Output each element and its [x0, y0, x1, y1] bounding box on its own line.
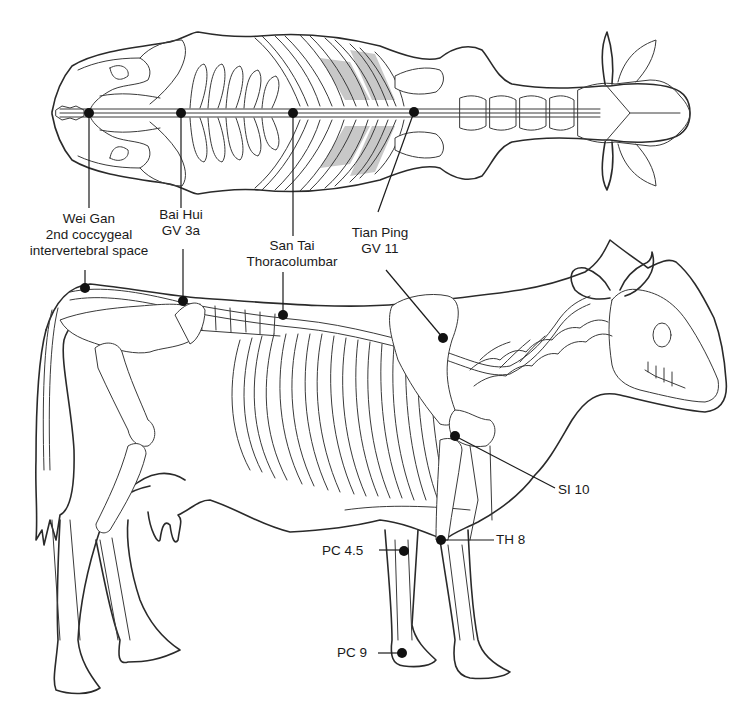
ear: [571, 268, 610, 299]
point-san-tai-lateral: [278, 310, 288, 320]
point-bai-hui-dorsal: [176, 108, 186, 118]
skull: [609, 289, 718, 402]
leader-lines: [85, 112, 555, 653]
belly-line: [128, 473, 445, 541]
hind-leg-near: [96, 520, 180, 663]
label-pc45: PC 4.5: [322, 543, 363, 559]
label-tian-ping-code: GV 11: [352, 241, 409, 257]
label-wei-gan: Wei Gan 2nd coccygeal intervertebral spa…: [30, 211, 149, 259]
label-tian-ping-name: Tian Ping: [352, 225, 409, 241]
point-pc9: [397, 648, 407, 658]
point-tian-ping-dorsal: [409, 107, 419, 117]
front-leg-near: [440, 530, 510, 679]
label-wei-gan-name: Wei Gan: [30, 211, 149, 227]
label-pc9: PC 9: [337, 645, 367, 661]
tibia: [96, 444, 146, 533]
label-bai-hui-code: GV 3a: [159, 223, 203, 239]
point-wei-gan-lateral: [80, 283, 90, 293]
lateral-view-skeleton: [0, 0, 756, 701]
femur: [95, 343, 155, 446]
label-bai-hui-name: Bai Hui: [159, 207, 203, 223]
point-san-tai-dorsal: [288, 108, 298, 118]
horn: [620, 252, 654, 296]
label-si10: SI 10: [558, 482, 590, 498]
scapula: [390, 294, 459, 425]
label-bai-hui: Bai Hui GV 3a: [159, 207, 203, 239]
label-san-tai-name: San Tai: [247, 238, 338, 254]
label-wei-gan-line3: intervertebral space: [30, 243, 149, 259]
point-bai-hui-lateral: [178, 296, 188, 306]
radius: [436, 438, 462, 540]
label-san-tai-line2: Thoracolumbar: [247, 254, 338, 270]
label-wei-gan-line2: 2nd coccygeal: [30, 227, 149, 243]
lateral-cervical-vertebrae: [470, 320, 612, 386]
point-pc45: [399, 546, 409, 556]
orbit: [653, 323, 671, 347]
lateral-pelvis: [60, 304, 197, 353]
point-si10: [450, 431, 460, 441]
cow-acupuncture-diagram: Wei Gan 2nd coccygeal intervertebral spa…: [0, 0, 756, 701]
point-th8: [436, 535, 446, 545]
label-san-tai: San Tai Thoracolumbar: [247, 238, 338, 270]
label-th8: TH 8: [496, 532, 525, 548]
acupuncture-points-dorsal: [84, 107, 419, 118]
point-tian-ping-lateral: [438, 333, 448, 343]
lateral-body-outline: [46, 240, 726, 540]
point-wei-gan-dorsal: [84, 108, 94, 118]
label-tian-ping: Tian Ping GV 11: [352, 225, 409, 257]
